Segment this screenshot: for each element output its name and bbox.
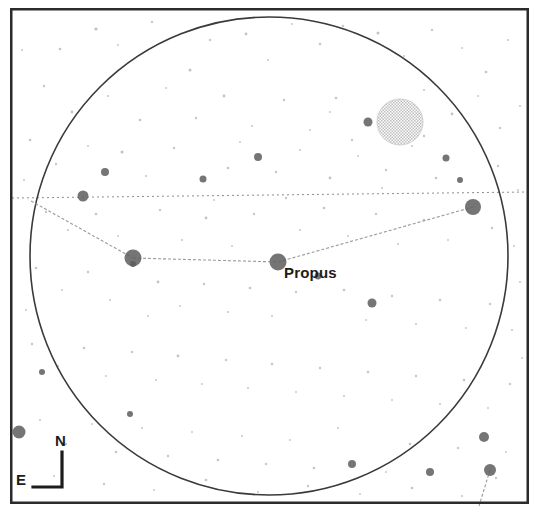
faint-star [87, 271, 89, 273]
faint-star [295, 391, 297, 393]
faint-star [457, 447, 459, 449]
faint-star [241, 435, 243, 437]
bright-star [479, 432, 489, 442]
faint-star [179, 305, 181, 307]
faint-star [223, 95, 226, 98]
faint-star [23, 179, 25, 181]
faint-star [87, 145, 89, 147]
faint-star [181, 239, 183, 241]
faint-star [377, 32, 380, 35]
faint-star [319, 43, 322, 46]
faint-star [329, 111, 331, 113]
faint-star [291, 23, 293, 25]
faint-star [251, 125, 253, 127]
faint-star [295, 291, 297, 293]
bright-star [426, 468, 434, 476]
faint-star [31, 343, 33, 345]
faint-star [509, 383, 511, 385]
faint-star [285, 197, 287, 199]
faint-star [121, 151, 124, 154]
faint-star [103, 483, 105, 485]
faint-star [519, 105, 521, 107]
faint-star [145, 175, 147, 177]
faint-star [209, 39, 211, 41]
faint-star [299, 149, 301, 151]
faint-star [365, 319, 367, 321]
faint-star [511, 329, 513, 331]
faint-star [477, 95, 479, 97]
faint-star [313, 467, 316, 470]
faint-star [59, 48, 62, 51]
faint-star [505, 451, 507, 453]
bright-star [368, 299, 377, 308]
faint-star [357, 155, 359, 157]
compass-north-label: N [55, 432, 66, 449]
faint-star [423, 89, 425, 91]
faint-star [359, 493, 361, 495]
faint-star [275, 171, 277, 173]
open-cluster [377, 99, 423, 145]
faint-star [337, 427, 339, 429]
faint-star [411, 145, 413, 147]
faint-star [231, 245, 233, 247]
faint-star [465, 327, 467, 329]
faint-star [435, 177, 438, 180]
faint-star [367, 371, 370, 374]
faint-star [29, 139, 32, 142]
faint-star [53, 475, 55, 477]
faint-star [253, 213, 255, 215]
faint-star [267, 59, 269, 61]
faint-star [247, 387, 249, 389]
faint-star [451, 113, 454, 116]
faint-star [61, 289, 63, 291]
faint-star [203, 283, 205, 285]
faint-star [265, 463, 267, 465]
faint-star [513, 245, 515, 247]
star-chart-container: Propus N E [0, 0, 542, 514]
faint-star [227, 311, 229, 313]
faint-star [391, 399, 393, 401]
faint-star [139, 119, 142, 122]
faint-star [461, 47, 463, 49]
faint-star [109, 299, 111, 301]
bright-star [127, 411, 133, 417]
faint-star [463, 379, 466, 382]
faint-star [391, 295, 393, 297]
faint-star [167, 455, 169, 457]
faint-star [499, 127, 501, 129]
faint-star [343, 289, 346, 292]
faint-star [385, 471, 387, 473]
faint-star [95, 213, 98, 216]
faint-star [415, 323, 417, 325]
faint-star [117, 235, 119, 237]
faint-star [271, 363, 274, 366]
sky-plot [0, 0, 542, 514]
faint-star [177, 355, 180, 358]
faint-star [25, 309, 27, 311]
faint-star [155, 379, 157, 381]
faint-star [94, 27, 97, 30]
faint-star [45, 211, 47, 213]
bright-star [364, 118, 373, 127]
faint-star [381, 187, 383, 189]
faint-star [431, 29, 433, 31]
faint-star [157, 281, 160, 284]
faint-star [159, 209, 161, 211]
faint-star [151, 21, 153, 23]
faint-star [205, 217, 208, 220]
bright-star [200, 176, 207, 183]
faint-star [385, 169, 387, 171]
faint-star [351, 139, 353, 141]
bright-star [484, 464, 496, 476]
faint-star [249, 287, 252, 290]
faint-star [213, 199, 215, 201]
bright-star [465, 199, 481, 215]
faint-star [439, 299, 442, 302]
bright-star [443, 155, 450, 162]
faint-star [153, 489, 155, 491]
faint-star [173, 147, 175, 149]
faint-star [409, 443, 412, 446]
faint-star [83, 347, 86, 350]
faint-star [347, 235, 349, 237]
faint-star [217, 459, 220, 462]
